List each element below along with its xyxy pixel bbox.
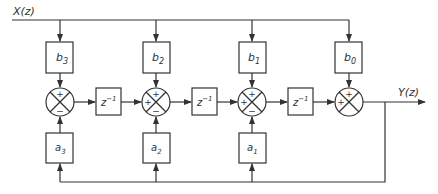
- block-a1: a1: [239, 133, 266, 163]
- svg-text:+: +: [152, 89, 160, 99]
- block-b3: b3: [46, 42, 73, 73]
- svg-text:+: +: [56, 89, 64, 99]
- input-label: X(z): [12, 5, 35, 18]
- block-a2: a2: [143, 133, 170, 163]
- svg-text:+: +: [248, 89, 256, 99]
- block-b1: b1: [239, 42, 266, 73]
- delay-2: z−1: [192, 88, 217, 115]
- svg-text:−: −: [56, 106, 64, 116]
- svg-text:−: −: [248, 106, 256, 116]
- delay-3: z−1: [288, 88, 313, 115]
- svg-text:+: +: [337, 97, 345, 107]
- block-diagram: b3 b2 b1 b0: [0, 0, 438, 194]
- output-label: Y(z): [398, 86, 419, 99]
- svg-text:+: +: [240, 97, 248, 107]
- b-coefficient-blocks: b3 b2 b1 b0: [46, 42, 362, 73]
- delay-1: z−1: [96, 88, 121, 115]
- svg-text:−: −: [152, 106, 160, 116]
- block-a3: a3: [46, 133, 73, 163]
- a-coefficient-blocks: a3 a2 a1: [46, 133, 266, 163]
- block-b0: b0: [335, 42, 362, 73]
- svg-text:+: +: [345, 89, 353, 99]
- svg-text:+: +: [144, 97, 152, 107]
- block-b2: b2: [143, 42, 170, 73]
